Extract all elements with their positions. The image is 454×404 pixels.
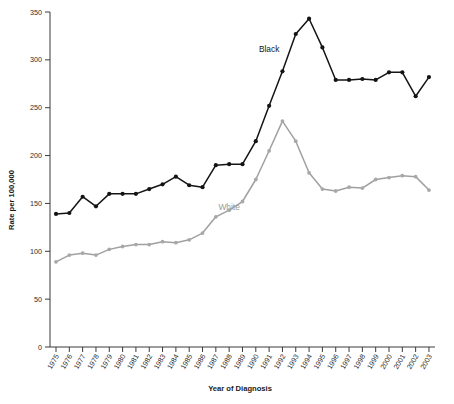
svg-text:1993: 1993 <box>285 353 301 371</box>
data-point-black-1988 <box>227 162 231 166</box>
data-point-white-1993 <box>294 139 298 143</box>
svg-text:300: 300 <box>30 55 42 64</box>
data-point-black-1989 <box>240 162 244 166</box>
data-point-black-1990 <box>254 139 258 143</box>
data-point-black-1999 <box>374 78 378 82</box>
data-point-white-1985 <box>187 238 191 242</box>
svg-text:50: 50 <box>34 295 42 304</box>
line-chart: 050100150200250300350 197519761977197819… <box>0 0 454 404</box>
series-annotations: BlackWhite <box>218 44 280 212</box>
data-point-white-1987 <box>214 215 218 219</box>
svg-text:1997: 1997 <box>338 353 354 371</box>
data-point-black-1998 <box>360 77 364 81</box>
svg-text:1981: 1981 <box>125 353 141 371</box>
series-label-white: White <box>218 202 240 212</box>
data-point-black-1981 <box>134 192 138 196</box>
data-point-white-2002 <box>414 175 418 179</box>
data-point-black-1975 <box>54 212 58 216</box>
svg-text:100: 100 <box>30 247 42 256</box>
data-point-white-1995 <box>321 187 325 191</box>
series-label-black: Black <box>259 44 280 54</box>
svg-text:250: 250 <box>30 103 42 112</box>
data-point-white-1980 <box>121 245 125 249</box>
svg-text:2000: 2000 <box>378 353 394 371</box>
data-point-black-1983 <box>160 182 164 186</box>
svg-text:1982: 1982 <box>138 353 154 371</box>
data-point-black-2001 <box>400 70 404 74</box>
svg-text:200: 200 <box>30 151 42 160</box>
data-point-black-1991 <box>267 104 271 108</box>
data-point-white-1992 <box>281 119 285 123</box>
data-point-black-1994 <box>307 17 311 21</box>
data-point-white-1977 <box>81 251 85 255</box>
data-point-white-1991 <box>267 149 271 153</box>
svg-text:2003: 2003 <box>418 353 434 371</box>
series-line-black <box>56 19 429 214</box>
svg-text:1983: 1983 <box>152 353 168 371</box>
svg-text:2001: 2001 <box>391 353 407 371</box>
data-point-white-1986 <box>201 231 205 235</box>
data-point-black-1976 <box>67 211 71 215</box>
data-point-white-1990 <box>254 178 258 182</box>
svg-text:1998: 1998 <box>351 353 367 371</box>
svg-text:1987: 1987 <box>205 353 221 371</box>
svg-text:1996: 1996 <box>325 353 341 371</box>
svg-text:350: 350 <box>30 8 42 17</box>
data-point-white-1975 <box>54 260 58 264</box>
data-point-black-1980 <box>121 192 125 196</box>
data-point-black-1985 <box>187 183 191 187</box>
data-point-white-1989 <box>241 200 245 204</box>
svg-text:1999: 1999 <box>365 353 381 371</box>
data-point-white-2001 <box>400 174 404 178</box>
svg-text:0: 0 <box>38 343 42 352</box>
data-point-black-1987 <box>214 163 218 167</box>
data-point-black-1995 <box>320 45 324 49</box>
svg-text:1990: 1990 <box>245 353 261 371</box>
data-series-group <box>54 17 431 264</box>
data-point-white-1999 <box>374 178 378 182</box>
x-axis-title: Year of Diagnosis <box>208 384 272 393</box>
data-point-black-1986 <box>200 185 204 189</box>
data-point-black-1979 <box>107 192 111 196</box>
chart-container: 050100150200250300350 197519761977197819… <box>0 0 454 404</box>
svg-text:1995: 1995 <box>312 353 328 371</box>
svg-text:1991: 1991 <box>258 353 274 371</box>
data-point-black-1978 <box>94 204 98 208</box>
svg-text:1979: 1979 <box>98 353 114 371</box>
y-axis: 050100150200250300350 <box>30 8 50 352</box>
data-point-black-2000 <box>387 70 391 74</box>
x-axis: 1975197619771978197919801981198219831984… <box>45 347 435 371</box>
svg-text:1984: 1984 <box>165 353 181 371</box>
data-point-white-1998 <box>360 186 364 190</box>
svg-text:1992: 1992 <box>272 353 288 371</box>
data-point-black-1996 <box>334 78 338 82</box>
svg-text:2002: 2002 <box>405 353 421 371</box>
data-point-white-1983 <box>161 240 165 244</box>
data-point-white-1997 <box>347 185 351 189</box>
series-line-white <box>56 121 429 262</box>
data-point-black-2002 <box>414 94 418 98</box>
svg-text:1994: 1994 <box>298 353 314 371</box>
data-point-white-1982 <box>147 243 151 247</box>
data-point-white-1978 <box>94 253 98 257</box>
svg-text:150: 150 <box>30 199 42 208</box>
data-point-white-2000 <box>387 176 391 180</box>
data-point-white-1984 <box>174 241 178 245</box>
svg-text:1978: 1978 <box>85 353 101 371</box>
svg-text:1976: 1976 <box>58 353 74 371</box>
data-point-white-1979 <box>107 247 111 251</box>
data-point-black-2003 <box>427 75 431 79</box>
data-point-black-1993 <box>294 32 298 36</box>
svg-text:1989: 1989 <box>232 353 248 371</box>
y-axis-title: Rate per 100,000 <box>7 170 16 230</box>
svg-text:1977: 1977 <box>72 353 88 371</box>
data-point-white-1981 <box>134 243 138 247</box>
data-point-black-1997 <box>347 78 351 82</box>
data-point-black-1992 <box>280 69 284 73</box>
data-point-white-2003 <box>427 188 431 192</box>
data-point-black-1982 <box>147 187 151 191</box>
svg-text:1986: 1986 <box>192 353 208 371</box>
svg-text:1985: 1985 <box>178 353 194 371</box>
data-point-white-1994 <box>307 171 311 175</box>
svg-text:1988: 1988 <box>218 353 234 371</box>
